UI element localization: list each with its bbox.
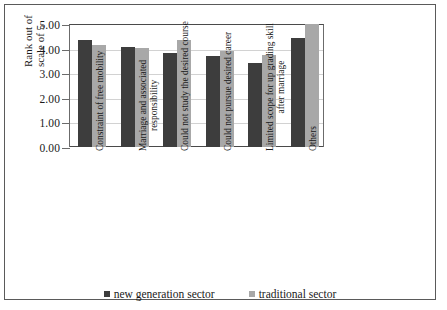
chart-legend: new generation sector traditional sector [5, 288, 435, 300]
legend-item-traditional-sector: traditional sector [249, 288, 337, 300]
x-axis-category-label-line: after marriage [276, 23, 287, 151]
bar[interactable] [163, 53, 177, 147]
bar[interactable] [206, 56, 220, 148]
bar[interactable] [121, 47, 135, 147]
x-axis-category-label: Marriage and associatedresponsibility [138, 60, 160, 151]
x-axis-category-label-line: Could not study the desired course [180, 21, 191, 151]
x-axis-category-label-line: Limited scope for up grading skill [265, 23, 276, 151]
x-axis-category-label: Limited scope for up grading skillafter … [265, 23, 287, 151]
y-axis-tick-label: 5.00 [39, 19, 60, 31]
x-axis-category-label-line: responsibility [149, 60, 160, 151]
x-axis-category-label: Others [308, 126, 319, 151]
chart-frame: Rank out of scale of 5 0.001.002.003.004… [4, 4, 436, 300]
y-axis-title-line-1: Rank out of [22, 0, 34, 67]
x-axis-category-label-line: Marriage and associated [138, 60, 149, 151]
y-axis-tick-label: 1.00 [39, 117, 60, 129]
y-axis-tick [62, 25, 70, 26]
y-axis-tick [62, 50, 70, 51]
x-axis-category-label: Could not pursue desired career [223, 32, 234, 151]
legend-swatch-icon [104, 291, 110, 297]
y-axis-title: Rank out of scale of 5 [22, 0, 47, 67]
y-axis-tick [62, 99, 70, 100]
y-axis-tick-label: 4.00 [39, 43, 60, 55]
x-axis-category-label: Constraint of free mobility [95, 51, 106, 151]
bar[interactable] [78, 40, 92, 147]
y-axis-tick [62, 148, 70, 149]
legend-item-new-generation-sector: new generation sector [104, 288, 215, 300]
legend-label: new generation sector [114, 288, 215, 300]
bar[interactable] [248, 63, 262, 147]
y-axis-tick-label: 2.00 [39, 93, 60, 105]
x-axis-category-label-line: Others [308, 126, 319, 151]
y-axis-title-line-2: scale of 5 [34, 0, 46, 67]
y-axis-tick-label: 3.00 [39, 68, 60, 80]
x-axis-category-label: Could not study the desired course [180, 21, 191, 151]
y-axis-tick-label: 0.00 [39, 142, 60, 154]
legend-swatch-icon [249, 291, 255, 297]
y-axis-tick [62, 123, 70, 124]
x-axis-category-label-line: Constraint of free mobility [95, 51, 106, 151]
x-axis-category-label-line: Could not pursue desired career [223, 32, 234, 151]
y-axis-tick [62, 74, 70, 75]
legend-label: traditional sector [259, 288, 337, 300]
bar[interactable] [291, 38, 305, 147]
